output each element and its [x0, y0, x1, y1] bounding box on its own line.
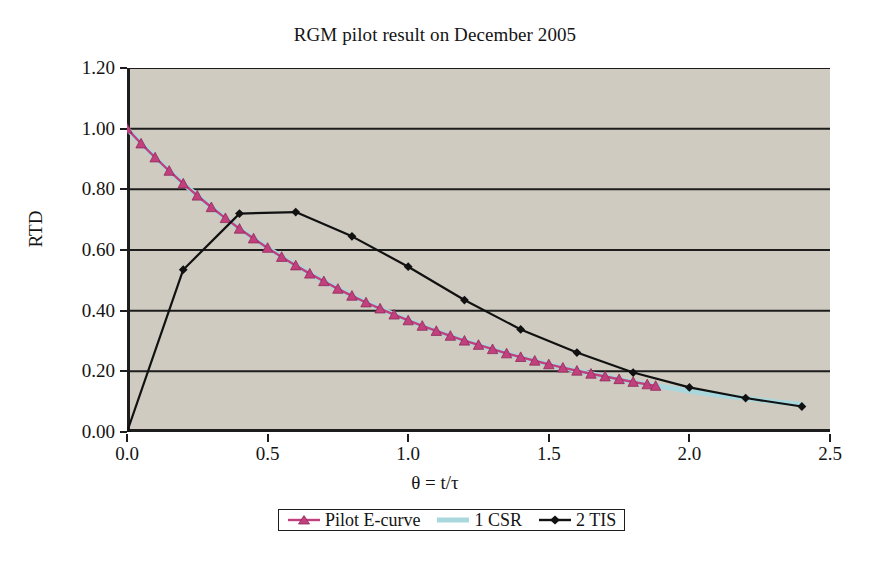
y-tick-mark	[120, 188, 127, 190]
x-tick-mark	[267, 434, 269, 442]
y-axis-title: RTD	[25, 189, 47, 269]
y-tick-label: 0.60	[45, 240, 115, 259]
y-tick-mark	[120, 128, 127, 130]
legend-item-pilot-e-curve: Pilot E-curve	[287, 511, 420, 529]
chart-title: RGM pilot result on December 2005	[0, 24, 870, 46]
legend-label: 2 TIS	[576, 511, 616, 529]
y-tick-label: 0.80	[45, 179, 115, 198]
y-tick-mark	[120, 370, 127, 372]
x-tick-label: 2.5	[795, 444, 865, 463]
x-tick-label: 1.0	[373, 444, 443, 463]
chart-legend: Pilot E-curve1 CSR2 TIS	[278, 509, 625, 531]
y-tick-label: 0.20	[45, 361, 115, 380]
legend-swatch-none-icon	[436, 513, 470, 527]
y-tick-label: 0.40	[45, 301, 115, 320]
x-tick-mark	[688, 434, 690, 442]
x-tick-mark	[407, 434, 409, 442]
plot-svg	[127, 68, 830, 432]
x-tick-label: 1.5	[514, 444, 584, 463]
y-tick-mark	[120, 310, 127, 312]
x-tick-mark	[548, 434, 550, 442]
y-tick-label: 0.00	[45, 422, 115, 441]
y-tick-mark	[120, 249, 127, 251]
x-tick-mark	[829, 434, 831, 442]
x-axis-title: θ = t/τ	[0, 472, 870, 494]
legend-label: Pilot E-curve	[325, 511, 420, 529]
x-tick-mark	[126, 434, 128, 442]
legend-swatch-triangle-icon	[287, 513, 321, 527]
chart-figure: RGM pilot result on December 2005 RTD 0.…	[0, 0, 870, 571]
legend-label: 1 CSR	[474, 511, 522, 529]
legend-item-2-tis: 2 TIS	[538, 511, 616, 529]
plot-wrapper	[127, 68, 830, 432]
x-tick-label: 0.5	[233, 444, 303, 463]
y-tick-mark	[120, 67, 127, 69]
y-tick-mark	[120, 431, 127, 433]
y-tick-label: 1.20	[45, 58, 115, 77]
x-tick-label: 2.0	[654, 444, 724, 463]
legend-swatch-diamond-icon	[538, 513, 572, 527]
legend-item-1-csr: 1 CSR	[436, 511, 522, 529]
y-tick-label: 1.00	[45, 119, 115, 138]
x-tick-label: 0.0	[92, 444, 162, 463]
